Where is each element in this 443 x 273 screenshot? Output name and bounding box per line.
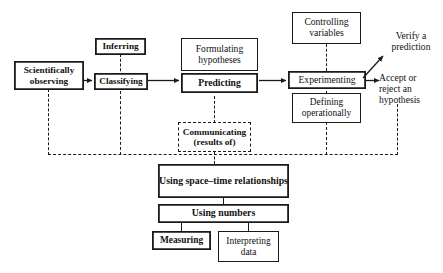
- node-defining-operationally[interactable]: Defining operationally: [292, 93, 361, 123]
- node-predicting[interactable]: Predicting: [181, 73, 258, 93]
- node-communicating[interactable]: Communicating (results of): [178, 122, 251, 152]
- node-label: Measuring: [160, 235, 203, 246]
- node-label: Predicting: [198, 78, 240, 89]
- node-classifying[interactable]: Classifying: [94, 73, 148, 90]
- node-label: Classifying: [99, 76, 142, 86]
- node-label: Using numbers: [192, 208, 255, 219]
- dash-hypothesis-down: [397, 104, 398, 155]
- node-scientifically-observing[interactable]: Scientifically observing: [14, 61, 84, 90]
- line-numbers-interpreting: [248, 222, 249, 231]
- node-using-numbers[interactable]: Using numbers: [158, 204, 289, 223]
- dash-defining-down: [326, 122, 327, 155]
- node-experimenting[interactable]: Experimenting: [288, 71, 366, 89]
- node-interpreting-data[interactable]: Interpreting data: [218, 231, 279, 262]
- node-label: Defining operationally: [293, 97, 360, 118]
- node-formulating-hypotheses[interactable]: Formulating hypotheses: [181, 38, 258, 71]
- node-label: Inferring: [102, 41, 138, 51]
- node-label: Interpreting data: [219, 236, 278, 257]
- node-label: Controlling variables: [293, 17, 360, 38]
- dash-controlling-experimenting: [326, 44, 327, 71]
- node-label: Using space–time relationships: [159, 176, 288, 187]
- node-controlling-variables[interactable]: Controlling variables: [292, 12, 361, 44]
- label-accept-or-reject: Accept or reject an hypothesis: [379, 73, 443, 106]
- diagram-canvas: Scientifically observing Inferring Class…: [0, 0, 443, 273]
- node-label: Formulating hypotheses: [182, 44, 257, 65]
- dash-bottom-bus: [48, 154, 398, 155]
- label-verify-prediction: Verify a prediction: [380, 31, 442, 53]
- node-inferring[interactable]: Inferring: [95, 38, 146, 55]
- node-measuring[interactable]: Measuring: [152, 231, 211, 250]
- dash-predicting-communicating: [214, 96, 215, 123]
- node-label: Communicating (results of): [179, 127, 250, 148]
- node-label: Scientifically observing: [15, 65, 83, 86]
- node-label: Experimenting: [298, 75, 355, 86]
- line-numbers-measuring: [181, 222, 182, 231]
- dash-classifying-down: [120, 91, 121, 155]
- dash-observing-down: [48, 89, 49, 155]
- node-using-space-time[interactable]: Using space–time relationships: [158, 164, 289, 198]
